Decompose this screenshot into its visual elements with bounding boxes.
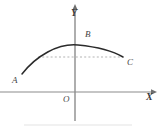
point-label-b: B — [85, 30, 91, 39]
origin-label: O — [63, 95, 70, 104]
coordinate-diagram-svg — [0, 0, 159, 131]
y-axis-label: Y — [71, 8, 77, 18]
x-axis-label: X — [146, 92, 153, 102]
caption-area-artifact — [24, 124, 132, 126]
point-label-c: C — [127, 58, 133, 67]
point-label-a: A — [12, 76, 18, 85]
parabolic-arc-path — [22, 45, 123, 74]
figure-container: Y X O A B C — [0, 0, 159, 131]
